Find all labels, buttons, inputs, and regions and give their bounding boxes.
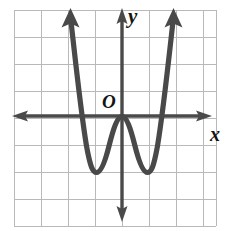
grid-lines (14, 10, 217, 227)
x-axis-label: x (210, 124, 220, 144)
origin-label: O (102, 92, 116, 111)
y-axis-label: y (128, 6, 137, 27)
coordinate-plane (0, 0, 229, 231)
graph-figure: y x O (0, 0, 229, 231)
